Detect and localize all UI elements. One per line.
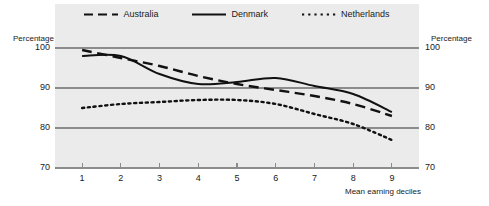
series-lines [82, 50, 392, 140]
legend-label-netherlands: Netherlands [341, 10, 390, 19]
plot-area [55, 25, 419, 169]
chart-legend: Australia Denmark Netherlands [55, 4, 419, 25]
y-tick-label-left-80: 80 [28, 123, 50, 132]
y-tick-label-right-70: 70 [425, 163, 447, 172]
x-axis-title: Mean earning deciles [345, 188, 421, 196]
x-tick-label-4: 4 [191, 174, 205, 183]
y-tick-label-right-90: 90 [425, 83, 447, 92]
legend-label-australia: Australia [123, 10, 158, 19]
x-tick-label-7: 7 [307, 174, 321, 183]
legend-solid-line-icon [192, 10, 226, 19]
legend-dashed-line-icon [84, 10, 118, 19]
x-tick-label-9: 9 [385, 174, 399, 183]
chart-figure: Australia Denmark Netherlands Percentage… [0, 0, 489, 206]
legend-item-denmark[interactable]: Denmark [192, 10, 268, 19]
x-tick-label-5: 5 [230, 174, 244, 183]
y-tick-label-right-100: 100 [425, 43, 447, 52]
y-tick-label-left-70: 70 [28, 163, 50, 172]
x-tick-label-1: 1 [75, 174, 89, 183]
legend-label-denmark: Denmark [231, 10, 268, 19]
x-tick-label-6: 6 [269, 174, 283, 183]
x-tick-label-2: 2 [114, 174, 128, 183]
y-tick-label-right-80: 80 [425, 123, 447, 132]
x-tick-label-3: 3 [153, 174, 167, 183]
x-tick-marks [82, 163, 392, 168]
legend-item-netherlands[interactable]: Netherlands [302, 10, 390, 19]
x-tick-label-8: 8 [346, 174, 360, 183]
legend-item-australia[interactable]: Australia [84, 10, 158, 19]
legend-dotted-line-icon [302, 10, 336, 19]
series-line-netherlands [82, 100, 392, 140]
y-tick-label-left-90: 90 [28, 83, 50, 92]
y-tick-label-left-100: 100 [28, 43, 50, 52]
